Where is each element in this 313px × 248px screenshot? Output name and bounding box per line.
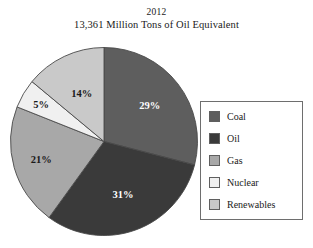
legend-label-gas: Gas [227,156,243,166]
legend-item-gas[interactable]: Gas [209,151,302,170]
pie-slice-label-gas: 21% [31,154,52,165]
pie-chart-figure: 2012 13,361 Million Tons of Oil Equivale… [0,0,313,248]
legend-label-renewables: Renewables [227,200,275,210]
legend-swatch-renewables [209,199,220,210]
legend-item-oil[interactable]: Oil [209,129,302,148]
pie-slice-label-oil: 31% [113,189,134,200]
chart-title-block: 2012 13,361 Million Tons of Oil Equivale… [0,6,313,32]
chart-title-total: 13,361 Million Tons of Oil Equivalent [0,18,313,31]
legend-swatch-gas [209,155,220,166]
legend-item-renewables[interactable]: Renewables [209,195,302,214]
legend-swatch-coal [209,111,220,122]
legend-swatch-oil [209,133,220,144]
chart-title-year: 2012 [0,6,313,18]
pie-slice-group [11,48,198,236]
legend-swatch-nuclear [209,177,220,188]
legend-label-nuclear: Nuclear [227,178,259,188]
pie-slice-label-renewables: 14% [71,88,92,99]
legend-item-coal[interactable]: Coal [209,107,302,126]
legend-item-nuclear[interactable]: Nuclear [209,173,302,192]
legend-label-coal: Coal [227,112,246,122]
pie-slice-label-nuclear: 5% [33,99,49,110]
chart-legend: Coal Oil Gas Nuclear Renewables [200,101,303,220]
pie-slice-label-coal: 29% [139,100,160,111]
legend-label-oil: Oil [227,134,240,144]
pie-chart-svg: 29%31%21%5%14% [10,47,198,236]
pie-chart: 29%31%21%5%14% [10,47,198,236]
